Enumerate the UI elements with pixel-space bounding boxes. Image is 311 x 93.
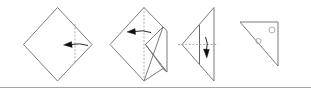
step-4-hit-area[interactable]: [236, 14, 292, 72]
step-2-hit-area[interactable]: [106, 2, 176, 86]
step-4-finished-right-triangle[interactable]: [236, 14, 292, 72]
step-3-left-pointing-triangle[interactable]: [178, 2, 234, 86]
step-2-right-flap-folded[interactable]: [106, 2, 176, 86]
step-3-hit-area[interactable]: [179, 2, 234, 86]
step-1-diamond-square[interactable]: [16, 2, 96, 86]
origami-figure: Origami folding sequence Four-step paper…: [0, 0, 311, 93]
origami-diagram-svg: [0, 0, 311, 93]
